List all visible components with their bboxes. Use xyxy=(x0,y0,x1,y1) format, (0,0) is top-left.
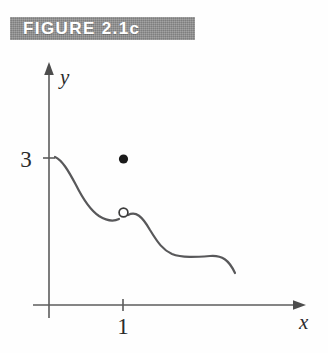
x-axis xyxy=(33,300,306,310)
curve-right-branch xyxy=(128,214,235,273)
y-axis-label: y xyxy=(58,65,70,89)
x-axis-label: x xyxy=(298,310,309,334)
x-tick-label-1: 1 xyxy=(117,314,129,339)
plot-area: y x 3 1 xyxy=(0,44,328,353)
figure-title: FIGURE 2.1c xyxy=(23,20,140,37)
y-axis xyxy=(44,62,54,318)
curve-left-branch xyxy=(55,157,119,221)
graph-svg: y x 3 1 xyxy=(0,44,328,353)
filled-point xyxy=(119,154,128,163)
open-circle-point xyxy=(119,208,128,217)
figure-banner: FIGURE 2.1c xyxy=(10,17,195,40)
y-tick-label-3: 3 xyxy=(20,147,32,172)
figure-container: FIGURE 2.1c xyxy=(0,0,328,353)
